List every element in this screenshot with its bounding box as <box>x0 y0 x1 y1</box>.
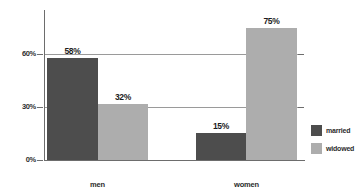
bar-women-married[interactable] <box>196 133 246 160</box>
y-tick-30-label: 30% <box>8 102 36 111</box>
y-tick-60-mark <box>37 54 43 55</box>
gridline-60-right-tick <box>298 54 304 55</box>
bar-men-married[interactable] <box>47 58 98 160</box>
gridline-30-right-tick <box>298 107 304 108</box>
legend-swatch-married <box>311 125 322 136</box>
y-tick-0-label: 0% <box>8 155 36 164</box>
x-axis-line <box>44 160 305 161</box>
legend-item-widowed[interactable]: widowed <box>311 143 363 154</box>
bar-label-women-widowed: 75% <box>246 16 297 26</box>
bar-label-men-married: 58% <box>47 46 98 56</box>
y-tick-60-label: 60% <box>8 49 36 58</box>
y-axis-line <box>44 10 45 160</box>
legend-label-widowed: widowed <box>326 145 354 152</box>
x-category-women: women <box>196 180 297 189</box>
legend-label-married: married <box>326 127 350 134</box>
plot-area: 60% 30% 0% 58% 32% 15% 75% men women <box>44 10 298 160</box>
bar-chart: 60% 30% 0% 58% 32% 15% 75% men women <box>0 0 363 191</box>
bar-label-women-married: 15% <box>196 121 246 131</box>
bar-label-men-widowed: 32% <box>98 92 148 102</box>
y-tick-0-mark <box>37 160 43 161</box>
bar-men-widowed[interactable] <box>98 104 148 160</box>
legend-item-married[interactable]: married <box>311 125 363 136</box>
x-category-men: men <box>47 180 148 189</box>
legend-swatch-widowed <box>311 143 322 154</box>
y-tick-30-mark <box>37 107 43 108</box>
legend: married widowed <box>311 125 363 161</box>
bar-women-widowed[interactable] <box>246 28 297 160</box>
